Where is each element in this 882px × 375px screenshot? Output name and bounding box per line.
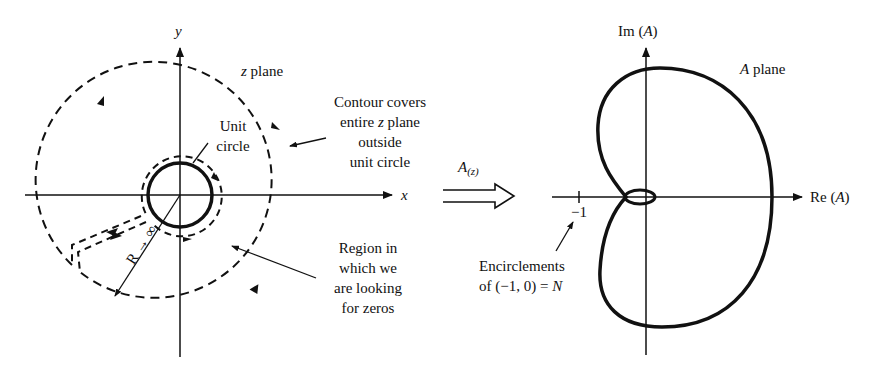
x-axis-label: x [401,186,408,204]
im-axis-label: Im (A) [618,22,658,40]
contour-note: Contour covers entire z plane outside un… [318,92,442,172]
mapping-function-label: A(z) [458,158,479,180]
inner-arrow-bottom [183,237,192,242]
region-note: Region in which we are looking for zeros [318,238,418,318]
y-axis-label: y [175,22,182,40]
a-plane-label: A plane [740,60,785,78]
unit-circle-label: Unit circle [208,116,258,156]
a-plane-axes [552,48,802,355]
re-axis-label: Re (A) [810,188,850,206]
mapping-arrow [443,184,514,208]
contour-arrow-upper-right [271,122,280,130]
tick-label-minus-one: −1 [571,203,587,221]
contour-arrow-lower-right [250,282,262,294]
z-plane-label: z plane [241,62,283,80]
inner-dashed-contour [142,156,222,236]
contour-arrow-upper-left [97,96,104,106]
region-note-pointer [232,246,316,278]
encirclement-pointer [556,222,573,251]
nyquist-diagram [0,0,882,375]
encirclement-note: Encirclements of (−1, 0) = N [479,256,565,296]
